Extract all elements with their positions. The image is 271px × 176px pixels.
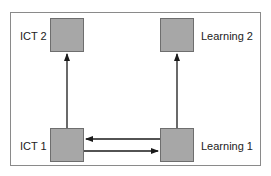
node-ict1-label: ICT 1: [20, 140, 47, 152]
node-learning2-label: Learning 2: [201, 30, 253, 42]
node-learning1-label: Learning 1: [201, 140, 253, 152]
node-learning1: [160, 128, 194, 162]
node-ict1: [50, 128, 84, 162]
node-ict2-label: ICT 2: [20, 30, 47, 42]
node-learning2: [160, 18, 194, 52]
node-ict2: [50, 18, 84, 52]
